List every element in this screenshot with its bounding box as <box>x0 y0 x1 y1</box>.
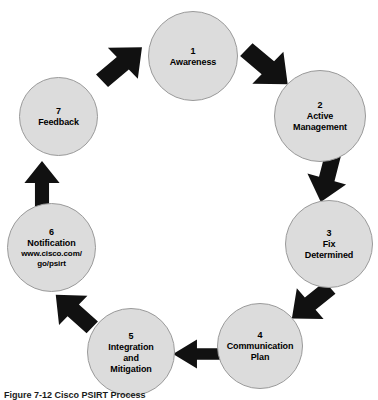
node-label: Integration and Mitigation <box>108 342 153 375</box>
node-number: 7 <box>56 105 61 117</box>
node-label: Active Management <box>293 111 347 133</box>
psirt-process-cycle-diagram: 1Awareness2Active Management3Fix Determi… <box>0 0 378 400</box>
node-label: Feedback <box>38 117 79 128</box>
process-node-active-management: 2Active Management <box>274 70 366 162</box>
process-node-communication-plan: 4Communication Plan <box>217 303 303 389</box>
process-node-fix-determined: 3Fix Determined <box>285 200 373 288</box>
process-node-feedback: 7Feedback <box>19 77 98 156</box>
node-number: 3 <box>327 227 332 239</box>
figure-caption: Figure 7-12 Cisco PSIRT Process <box>4 390 264 400</box>
node-number: 5 <box>129 330 134 342</box>
node-number: 6 <box>49 226 54 238</box>
arrow-integration-to-notification <box>48 286 100 336</box>
node-label: Awareness <box>170 57 216 68</box>
node-url: www.cisco.com/ go/psirt <box>21 249 82 269</box>
process-node-integration-and-mitigation: 5Integration and Mitigation <box>87 308 175 396</box>
node-number: 2 <box>318 99 323 111</box>
arrow-feedback-to-awareness <box>94 38 150 90</box>
arrow-notification-to-feedback <box>20 160 64 208</box>
process-node-awareness: 1Awareness <box>148 11 238 101</box>
process-node-notification: 6Notificationwww.cisco.com/ go/psirt <box>7 203 96 292</box>
node-label: Notification <box>27 238 75 249</box>
node-number: 4 <box>258 329 263 341</box>
node-label: Communication Plan <box>227 341 294 363</box>
node-number: 1 <box>191 45 196 57</box>
node-label: Fix Determined <box>305 239 354 261</box>
